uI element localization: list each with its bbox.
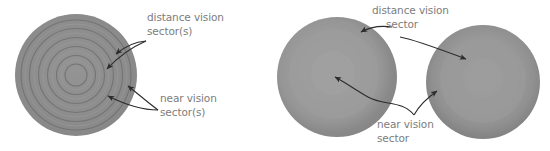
left-panel-concentric-lens xyxy=(15,14,137,136)
label-near-left-line2: sector(s) xyxy=(160,106,217,120)
left-lens-disc xyxy=(15,14,137,136)
graded-disc-center-core xyxy=(311,51,355,95)
label-distance-right-line1: distance vision xyxy=(372,4,449,16)
label-near-right-line1: near vision xyxy=(377,118,434,130)
label-near-vision-sector-left: near vision sector(s) xyxy=(160,92,217,119)
diagram-graphics xyxy=(0,0,550,151)
label-distance-vision-sector-right: distance vision sector xyxy=(372,4,449,31)
label-near-left-line1: near vision xyxy=(160,92,217,104)
label-distance-left-line2: sector(s) xyxy=(147,25,224,39)
label-near-right-line2: sector xyxy=(377,132,434,146)
figure-container: distance vision sector(s) near vision se… xyxy=(0,0,550,151)
label-near-vision-sector-right: near vision sector xyxy=(377,118,434,145)
label-distance-left-line1: distance vision xyxy=(147,11,224,23)
label-distance-vision-sector-left: distance vision sector(s) xyxy=(147,11,224,38)
graded-disc-right-core xyxy=(463,58,503,98)
label-distance-right-line2: sector xyxy=(372,18,449,32)
